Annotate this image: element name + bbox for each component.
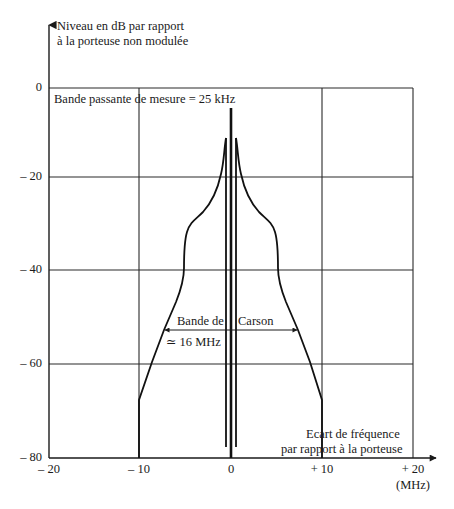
- x-unit-label: (MHz): [388, 478, 438, 493]
- x-tick-p20: + 20: [388, 462, 438, 477]
- envelope-left: [139, 138, 226, 458]
- y-axis-title-line2: à la porteuse non modulée: [57, 34, 188, 49]
- y-tick-0: 0: [0, 80, 42, 95]
- y-axis-title: Niveau en dB par rapport à la porteuse n…: [57, 19, 188, 49]
- axes: [49, 25, 436, 458]
- y-tick-m20: – 20: [0, 169, 42, 184]
- x-tick-m10: – 10: [114, 462, 164, 477]
- carson-label-right: Carson: [238, 314, 273, 329]
- envelope-right: [236, 138, 322, 458]
- x-tick-0: 0: [206, 462, 256, 477]
- y-tick-m60: – 60: [0, 356, 42, 371]
- bandwidth-annotation: Bande passante de mesure = 25 kHz: [54, 92, 235, 107]
- carson-value: ≃ 16 MHz: [166, 335, 221, 350]
- carson-label-left: Bande de: [177, 314, 224, 329]
- y-tick-m40: – 40: [0, 262, 42, 277]
- y-axis-title-line1: Niveau en dB par rapport: [57, 19, 188, 34]
- x-axis-title-line1: Ecart de fréquence: [306, 427, 400, 442]
- x-axis-title-line2: par rapport à la porteuse: [281, 442, 402, 457]
- x-tick-m20: – 20: [24, 462, 74, 477]
- x-tick-p10: + 10: [297, 462, 347, 477]
